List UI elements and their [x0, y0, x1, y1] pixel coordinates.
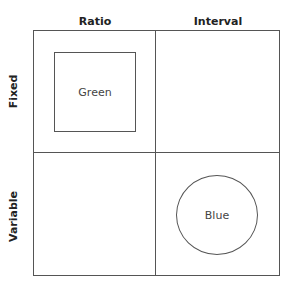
grid-horizontal-divider: [33, 152, 280, 153]
column-header-ratio: Ratio: [60, 15, 130, 28]
blue-circle: Blue: [176, 175, 258, 255]
row-header-fixed: Fixed: [7, 52, 20, 132]
grid-vertical-divider: [155, 30, 156, 276]
green-square: Green: [54, 52, 136, 132]
blue-circle-label: Blue: [205, 209, 229, 222]
row-header-variable: Variable: [7, 177, 20, 257]
column-header-interval: Interval: [183, 15, 253, 28]
green-square-label: Green: [78, 86, 111, 99]
